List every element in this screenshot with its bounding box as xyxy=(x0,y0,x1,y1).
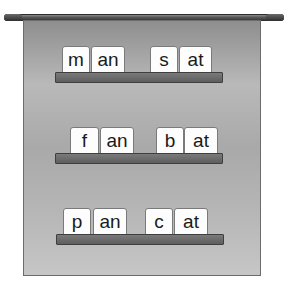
letter-tile-rime: an xyxy=(100,127,134,154)
letter-tile-rime: at xyxy=(174,208,208,235)
letter-tile-rime: an xyxy=(93,208,127,235)
rod-end-left xyxy=(4,14,22,21)
rod-end-right xyxy=(266,14,284,21)
shelf-row-1 xyxy=(55,72,223,83)
letter-tile-onset: c xyxy=(145,208,173,235)
letter-tile-rime: an xyxy=(91,46,125,73)
letter-tile-onset: s xyxy=(150,46,178,73)
letter-tile-onset: b xyxy=(156,127,184,154)
letter-tile-rime: at xyxy=(179,46,212,73)
shelf-row-2 xyxy=(55,153,223,164)
letter-tile-onset: p xyxy=(63,208,91,235)
letter-tile-onset: m xyxy=(62,46,90,73)
letter-tile-onset: f xyxy=(70,127,99,154)
shelf-row-3 xyxy=(56,234,224,245)
letter-tile-rime: at xyxy=(184,127,218,154)
